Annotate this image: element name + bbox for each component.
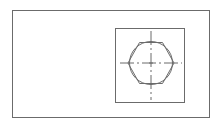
- outer-frame: [13, 11, 210, 118]
- view-box: [116, 29, 185, 103]
- drawing-canvas: [0, 0, 216, 123]
